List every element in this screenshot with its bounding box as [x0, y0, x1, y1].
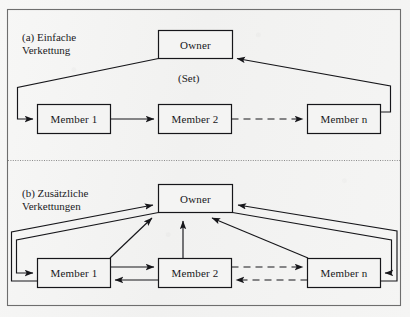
panel-b-member-1-box[interactable] [38, 259, 111, 288]
panel-b-edge-member-1-to-owner [110, 218, 152, 258]
panel-b-member-n-box[interactable] [308, 259, 381, 288]
panel-a-member-2-box[interactable] [159, 105, 232, 134]
panel-a-caption: (a) Einfache Verkettung [22, 31, 76, 57]
panel-b-owner-box[interactable] [159, 185, 233, 213]
panel-a-member-n-box[interactable] [308, 105, 381, 134]
panel-b-member-2-box[interactable] [159, 259, 232, 288]
panel-a-member-1-box[interactable] [38, 105, 111, 134]
panel-a-owner-box[interactable] [159, 31, 233, 59]
panel-b-caption: (b) Zusätzliche Verkettungen [22, 187, 88, 213]
panel-a-set-label: (Set) [178, 72, 199, 84]
panel-b-edge-member-n-to-owner [212, 218, 308, 258]
figure-canvas: (a) Einfache Verkettung Owner (Set) Memb… [0, 0, 410, 317]
